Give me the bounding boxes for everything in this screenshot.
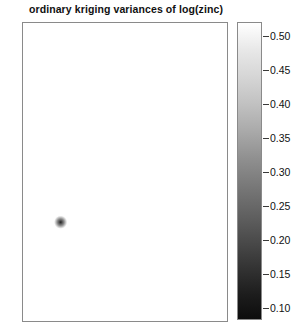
kriging-variance-plot: ordinary kriging variances of log(zinc) … bbox=[0, 0, 294, 332]
colorbar-tick-label: 0.35 bbox=[270, 132, 290, 144]
colorbar-tick-label: 0.30 bbox=[270, 166, 290, 178]
colorbar-tick-mark bbox=[263, 104, 269, 105]
colorbar-tick-mark bbox=[263, 36, 269, 37]
colorbar-tick-label: 0.25 bbox=[270, 200, 290, 212]
kriging-variance-raster bbox=[23, 23, 227, 321]
page-title: ordinary kriging variances of log(zinc) bbox=[0, 3, 252, 15]
colorbar-tick-label: 0.40 bbox=[270, 98, 290, 110]
colorbar-tick-label: 0.10 bbox=[270, 302, 290, 314]
colorbar-tick-mark bbox=[263, 240, 269, 241]
colorbar-tick-label: 0.20 bbox=[270, 234, 290, 246]
colorbar-tick-mark bbox=[263, 206, 269, 207]
colorbar bbox=[237, 22, 262, 320]
colorbar-tick-label: 0.15 bbox=[270, 268, 290, 280]
colorbar-tick-label: 0.45 bbox=[270, 64, 290, 76]
colorbar-tick-mark bbox=[263, 138, 269, 139]
map-panel[interactable] bbox=[22, 22, 228, 322]
colorbar-tick-label: 0.50 bbox=[270, 30, 290, 42]
colorbar-gradient bbox=[238, 23, 261, 319]
colorbar-tick-mark bbox=[263, 308, 269, 309]
colorbar-tick-mark bbox=[263, 274, 269, 275]
colorbar-tick-mark bbox=[263, 70, 269, 71]
colorbar-tick-mark bbox=[263, 172, 269, 173]
